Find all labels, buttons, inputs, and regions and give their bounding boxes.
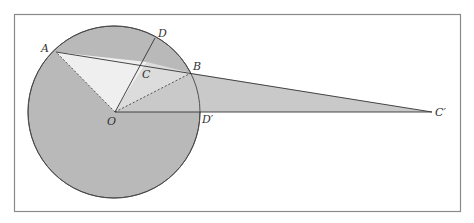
- label-c: C: [142, 68, 151, 81]
- label-a: A: [40, 42, 49, 55]
- geometry-figure: A B C D O D′ C′: [0, 0, 474, 223]
- label-c-prime: C′: [435, 106, 446, 119]
- label-d-prime: D′: [201, 113, 214, 126]
- label-b: B: [192, 60, 201, 73]
- label-o: O: [107, 115, 116, 128]
- label-d: D: [157, 27, 167, 40]
- diagram-canvas: A B C D O D′ C′: [0, 0, 474, 223]
